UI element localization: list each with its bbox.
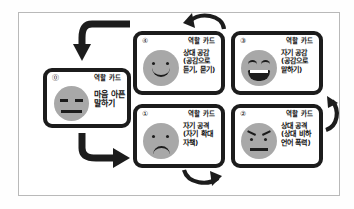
card-header-label: 역할 카드 <box>94 75 121 82</box>
card-step1[interactable]: ① 역할 카드 자기 공격 (자기 확대 자책) <box>133 104 225 168</box>
card-body-text: 마음 아픈 말하기 <box>94 90 131 109</box>
card-body-text: 자기 공감 (공감으로 말하기) <box>281 49 323 74</box>
card-header-label: 역할 카드 <box>286 111 313 118</box>
diagram-canvas: ⓪ 역할 카드 마음 아픈 말하기 ④ 역할 카드 상대 공감 (공감으로 듣기… <box>0 0 354 209</box>
card-step3[interactable]: ③ 역할 카드 자기 공감 (공감으로 말하기) <box>231 31 323 95</box>
card-number: ④ <box>142 38 148 45</box>
card-header-label: 역할 카드 <box>188 111 215 118</box>
card-number: ③ <box>240 38 246 45</box>
card-header-label: 역할 카드 <box>286 38 313 45</box>
card-body-text: 상대 공감 (공감으로 듣기, 묻기) <box>183 49 225 74</box>
smile-face-icon <box>143 50 179 86</box>
card-number: ① <box>142 111 148 118</box>
card-number: ⓪ <box>52 75 59 82</box>
sad-face-icon <box>143 123 179 159</box>
card-header-label: 역할 카드 <box>188 38 215 45</box>
card-start[interactable]: ⓪ 역할 카드 마음 아픈 말하기 <box>43 68 131 128</box>
card-body-text: 상대 공격 (상대 비하 언어 폭력) <box>281 122 323 147</box>
neutral-face-icon <box>54 86 89 121</box>
laughing-face-icon <box>241 50 277 86</box>
card-step2[interactable]: ② 역할 카드 상대 공격 (상대 비하 언어 폭력) <box>231 104 323 168</box>
angry-face-icon <box>241 123 277 159</box>
card-step4[interactable]: ④ 역할 카드 상대 공감 (공감으로 듣기, 묻기) <box>133 31 225 95</box>
card-body-text: 자기 공격 (자기 확대 자책) <box>183 122 225 147</box>
card-number: ② <box>240 111 246 118</box>
